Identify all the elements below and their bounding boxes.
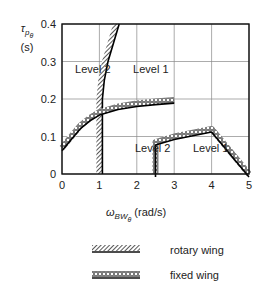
level-label: Level 2 [75,63,110,75]
x-tick-label: 4 [209,179,215,191]
level-label: Level 1 [193,142,228,154]
y-tick-label: 0.4 [41,18,56,30]
level-label: Level 2 [135,142,170,154]
legend-label-fixed: fixed wing [170,269,219,281]
chart-plot: 01234500.10.20.30.4 Level 2Level 1Level … [0,0,261,230]
x-tick-label: 2 [134,179,140,191]
x-tick-label: 5 [246,179,252,191]
x-tick-label: 0 [59,179,65,191]
y-tick-label: 0 [50,168,56,180]
y-tick-label: 0.3 [41,56,56,68]
legend-item-rotary: rotary wing [92,244,224,256]
y-tick-label: 0.1 [41,131,56,143]
hatch-swatch-icon [92,245,140,255]
legend-label-rotary: rotary wing [170,244,224,256]
legend-item-fixed: fixed wing [92,269,219,281]
x-tick-label: 1 [96,179,102,191]
level-label: Level 1 [133,63,168,75]
series-layer [62,24,249,177]
y-tick-label: 0.2 [41,93,56,105]
x-axis-label: ωBWθ (rad/s) [106,206,166,223]
crosshatch-swatch-icon [92,270,140,280]
x-tick-label: 3 [171,179,177,191]
